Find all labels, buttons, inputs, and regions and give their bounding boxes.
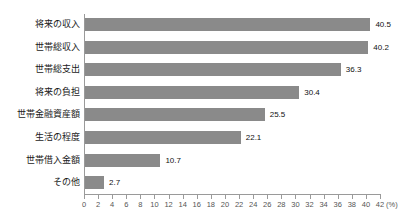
category-label: 世帯金融資産額 [17,108,80,121]
x-axis-tick-label: 32 [305,200,313,209]
bar [85,63,341,76]
bar [85,154,160,167]
x-axis-tick-label: 40 [362,200,370,209]
bar-value-label: 10.7 [165,154,181,167]
x-axis-tick [225,195,226,199]
bar-value-label: 25.5 [270,108,286,121]
bar [85,41,368,54]
x-axis-tick-label: 36 [334,200,342,209]
x-axis-tick-label: 4 [110,200,114,209]
category-label: 将来の収入 [35,18,80,31]
x-axis-tick-label: 22 [235,200,243,209]
x-axis-tick-label: 30 [291,200,299,209]
x-axis-tick-label: 38 [348,200,356,209]
bar-chart: 将来の収入40.5世帯総収入40.2世帯総支出36.3将来の負担30.4世帯金融… [0,0,419,219]
category-label: 世帯借入金額 [26,154,80,167]
x-axis-tick [140,195,141,199]
bar-value-label: 22.1 [246,131,262,144]
x-axis-tick [352,195,353,199]
bar-value-label: 40.2 [373,41,389,54]
x-axis-tick [281,195,282,199]
x-axis-tick [324,195,325,199]
bar-value-label: 2.7 [109,176,120,189]
x-axis-tick-label: 42 [376,200,384,209]
x-axis-tick [197,195,198,199]
bar-row: 世帯総支出36.3 [0,59,419,82]
x-axis-tick [84,195,85,199]
x-axis-tick [126,195,127,199]
x-axis-tick [338,195,339,199]
x-axis-tick-label: 10 [150,200,158,209]
x-axis-tick [295,195,296,199]
x-axis-tick [183,195,184,199]
x-axis-tick [253,195,254,199]
x-axis-tick [380,195,381,199]
x-axis-tick-label: 20 [221,200,229,209]
bar [85,18,370,31]
bar-row: 生活の程度22.1 [0,127,419,150]
bar [85,86,299,99]
bar-value-label: 30.4 [304,86,320,99]
x-axis-tick [169,195,170,199]
x-axis-tick-label: 28 [277,200,285,209]
x-axis-tick-label: 2 [96,200,100,209]
category-label: 将来の負担 [35,86,80,99]
x-axis-tick [267,195,268,199]
bar [85,108,265,121]
x-axis-tick [98,195,99,199]
bar-row: 世帯総収入40.2 [0,37,419,60]
x-axis-tick-label: 24 [249,200,257,209]
x-axis-tick-label: 6 [124,200,128,209]
bar-row: 将来の収入40.5 [0,14,419,37]
x-axis-tick [154,195,155,199]
x-axis-tick-label: 16 [193,200,201,209]
category-label: 生活の程度 [35,131,80,144]
category-label: 世帯総支出 [35,63,80,76]
category-label: 世帯総収入 [35,41,80,54]
x-axis-tick-label: 26 [263,200,271,209]
x-axis-tick [211,195,212,199]
bar-row: 世帯金融資産額25.5 [0,104,419,127]
x-axis-unit-label: (%) [386,200,398,209]
category-label: その他 [53,176,80,189]
x-axis-tick-label: 14 [178,200,186,209]
x-axis-tick [112,195,113,199]
bar-row: 世帯借入金額10.7 [0,150,419,173]
x-axis-tick-label: 34 [319,200,327,209]
x-axis-tick [310,195,311,199]
chart-title [6,0,236,3]
x-axis-tick-label: 8 [138,200,142,209]
bar [85,176,104,189]
bar [85,131,241,144]
x-axis-tick [366,195,367,199]
bar-row: 将来の負担30.4 [0,82,419,105]
x-axis-tick [239,195,240,199]
x-axis-tick-label: 0 [82,200,86,209]
x-axis-tick-label: 18 [207,200,215,209]
bar-value-label: 36.3 [346,63,362,76]
x-axis-tick-label: 12 [164,200,172,209]
bar-row: その他2.7 [0,172,419,195]
bar-value-label: 40.5 [375,18,391,31]
